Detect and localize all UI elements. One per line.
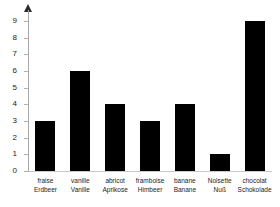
x-axis-category-label: vanilleVanille [63,176,98,194]
bar [70,71,90,171]
category-label-fr: vanille [63,176,98,185]
bar-chart: 9876543210 fraiseErdbeervanilleVanilleab… [0,0,280,207]
category-label-de: Vanille [63,185,98,194]
x-axis-category-label: framboiseHimbeer [133,176,168,194]
category-label-fr: banane [167,176,202,185]
bar [245,21,265,171]
bar [140,121,160,171]
x-axis-category-label: fraiseErdbeer [28,176,63,194]
bar [210,154,230,171]
category-label-fr: framboise [133,176,168,185]
category-label-fr: abricot [98,176,133,185]
bar [35,121,55,171]
category-label-de: Aprikose [98,185,133,194]
bar [175,104,195,171]
category-label-fr: Noisette [202,176,237,185]
x-axis-category-label: chocolatSchokolade [237,176,272,194]
x-axis-category-labels: fraiseErdbeervanilleVanilleabricotApriko… [28,176,272,204]
x-axis-category-label: abricotAprikose [98,176,133,194]
category-label-de: Schokolade [237,185,272,194]
category-label-de: Banane [167,185,202,194]
category-label-fr: fraise [28,176,63,185]
category-label-fr: chocolat [237,176,272,185]
x-axis-category-label: NoisetteNuß [202,176,237,194]
bar [105,104,125,171]
category-label-de: Nuß [202,185,237,194]
category-label-de: Erdbeer [28,185,63,194]
x-axis-category-label: bananeBanane [167,176,202,194]
category-label-de: Himbeer [133,185,168,194]
